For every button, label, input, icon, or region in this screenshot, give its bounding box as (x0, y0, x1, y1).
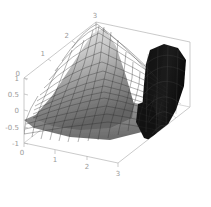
z-tick-label: 0 (15, 107, 19, 115)
surface-mesh (24, 24, 186, 142)
z-tick-label: -0.5 (5, 124, 19, 132)
surface-plot-figure: 1 0.5 0 -0.5 -1 0 1 2 3 0 1 2 3 (0, 0, 211, 207)
z-axis-tick-labels: 1 0.5 0 -0.5 -1 (5, 75, 19, 148)
x-axis-tick-labels: 0 1 2 3 (20, 149, 120, 178)
surface-ridge (33, 28, 134, 130)
x-tick-label: 3 (116, 170, 120, 178)
x-tick-label: 1 (53, 156, 57, 164)
x-tick-label: 2 (85, 163, 89, 171)
y-tick-label: 2 (65, 32, 69, 40)
plot-canvas: 1 0.5 0 -0.5 -1 0 1 2 3 0 1 2 3 (0, 0, 211, 207)
y-tick-label: 1 (41, 50, 45, 58)
y-tick-label: 3 (93, 12, 97, 20)
y-tick-label: 0 (16, 70, 20, 78)
z-tick-label: 0.5 (8, 91, 19, 99)
x-tick-label: 0 (20, 149, 24, 157)
z-tick-label: -1 (12, 140, 19, 148)
